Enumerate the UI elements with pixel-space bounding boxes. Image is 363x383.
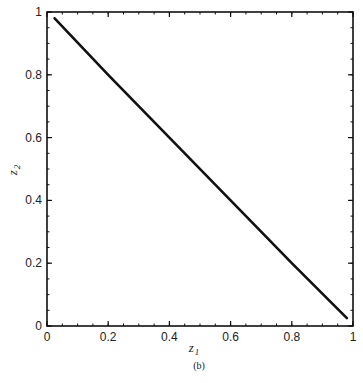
x-tick-label: 0.2: [100, 330, 117, 344]
y-tick-label: 0.8: [25, 68, 42, 82]
y-tick-label: 0: [35, 319, 42, 333]
x-tick-label: 0.8: [283, 330, 300, 344]
y-tick-label: 0.2: [25, 256, 42, 270]
x-tick-label: 1: [350, 330, 357, 344]
x-tick-label: 0.6: [222, 330, 239, 344]
y-axis-label: z2: [5, 164, 22, 176]
x-tick-label: 0.4: [161, 330, 178, 344]
y-tick-label: 1: [35, 5, 42, 19]
x-axis-label: z1: [188, 340, 200, 357]
chart: 00.20.40.60.81 00.20.40.60.81 z1 z2 (b): [0, 0, 363, 383]
x-tick-labels: 00.20.40.60.81: [44, 330, 357, 344]
y-tick-label: 0.6: [25, 131, 42, 145]
y-tick-labels: 00.20.40.60.81: [25, 5, 42, 333]
y-tick-label: 0.4: [25, 193, 42, 207]
figure-caption: (b): [193, 360, 205, 372]
data-line: [55, 18, 347, 318]
x-tick-label: 0: [44, 330, 51, 344]
